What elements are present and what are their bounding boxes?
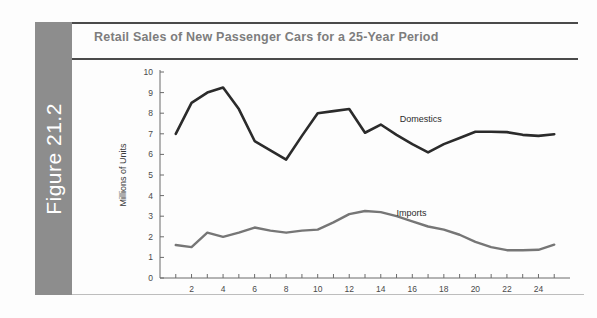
y-axis-title: Millions of Units — [118, 143, 128, 207]
series-line-imports — [176, 211, 554, 250]
x-tick-label: 2 — [189, 284, 194, 294]
x-tick-label: 18 — [439, 284, 449, 294]
footer-rule — [72, 294, 584, 295]
x-tick-label: 10 — [313, 284, 323, 294]
x-tick-label: 4 — [221, 284, 226, 294]
chart-svg: 012345678910 24681012141618202224 Millio… — [72, 62, 578, 294]
y-tick-label: 2 — [148, 232, 153, 242]
x-tick-label: 22 — [502, 284, 512, 294]
x-tick-label: 24 — [534, 284, 544, 294]
y-tick-label: 5 — [148, 170, 153, 180]
x-tick-label: 14 — [376, 284, 386, 294]
chart-title: Retail Sales of New Passenger Cars for a… — [94, 30, 438, 44]
figure-number-label: Figure 21.2 — [42, 103, 66, 215]
header-rule-top — [72, 22, 578, 24]
series-label-domestics: Domestics — [400, 114, 443, 124]
figure-container: Figure 21.2 Retail Sales of New Passenge… — [0, 0, 597, 318]
y-tick-label: 10 — [144, 67, 154, 77]
y-tick-label: 4 — [148, 191, 153, 201]
x-tick-label: 8 — [284, 284, 289, 294]
header-rule-bottom — [72, 58, 578, 60]
y-tick-label: 0 — [148, 273, 153, 283]
y-tick-label: 1 — [148, 252, 153, 262]
line-chart: 012345678910 24681012141618202224 Millio… — [72, 62, 578, 294]
y-tick-label: 9 — [148, 88, 153, 98]
x-tick-label: 16 — [408, 284, 418, 294]
y-tick-label: 3 — [148, 211, 153, 221]
y-tick-label: 6 — [148, 149, 153, 159]
figure-number-tab: Figure 21.2 — [35, 22, 72, 295]
x-tick-label: 6 — [252, 284, 257, 294]
y-axis-ticks: 012345678910 — [144, 67, 164, 283]
x-tick-label: 20 — [471, 284, 481, 294]
chart-header: Retail Sales of New Passenger Cars for a… — [72, 22, 578, 62]
chart-series-group — [176, 87, 554, 250]
x-axis-ticks: 24681012141618202224 — [176, 274, 554, 294]
y-axis-title-text: Millions of Units — [118, 143, 128, 207]
chart-axes — [160, 70, 570, 278]
y-tick-label: 7 — [148, 129, 153, 139]
x-tick-label: 12 — [344, 284, 354, 294]
series-annotations: DomesticsImports — [397, 114, 443, 218]
series-label-imports: Imports — [397, 208, 428, 218]
y-tick-label: 8 — [148, 108, 153, 118]
series-line-domestics — [176, 87, 554, 159]
